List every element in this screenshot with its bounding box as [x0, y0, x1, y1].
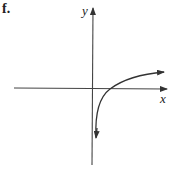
graph: [0, 0, 171, 169]
y-axis: [92, 8, 93, 165]
x-axis: [14, 88, 167, 89]
log-curve: [96, 72, 164, 137]
